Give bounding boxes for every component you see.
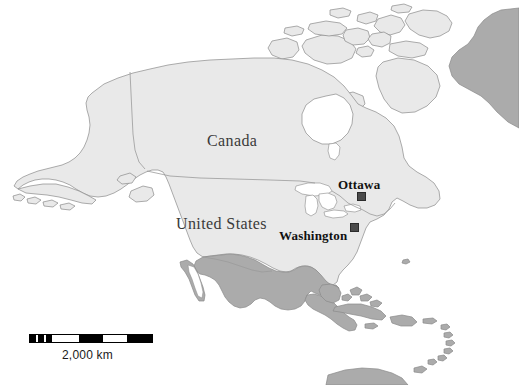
scale-bar-segment-5 [52,335,79,342]
city-marker-ottawa [357,192,366,201]
scale-bar-segment-6 [79,335,104,342]
city-label-washington: Washington [279,229,347,242]
scale-bar-segment-8 [127,335,152,342]
map-canvas [0,0,519,385]
scale-bar-label: 2,000 km [62,348,113,362]
scale-bar-segment-7 [103,335,127,342]
scale-bar [29,334,153,343]
country-label-canada: Canada [207,133,257,149]
north-america-reference-map: Canada United States Ottawa Washington 2… [0,0,519,385]
country-label-united-states: United States [176,216,267,232]
city-label-ottawa: Ottawa [338,178,380,191]
city-marker-washington [350,223,359,232]
arctic-islet-c [330,8,351,18]
lake-michigan [305,195,318,216]
